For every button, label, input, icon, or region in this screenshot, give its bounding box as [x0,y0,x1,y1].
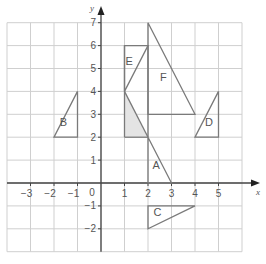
x-tick-label: −3 [21,188,33,199]
shape-label-d: D [205,116,213,128]
x-tick-label: 4 [192,188,198,199]
x-tick-label: 2 [145,188,151,199]
shape-label-a: A [153,159,161,171]
shape-label-f: F [160,71,167,83]
y-tick-label: 1 [90,155,96,166]
shape-label-c: C [153,206,161,218]
y-tick-label: −1 [85,200,97,211]
y-axis-label: y [89,3,94,13]
labels: −3−2−1123457654321−1−20xyABCDEF [21,3,260,234]
x-axis-label: x [255,187,260,197]
x-tick-label: 5 [216,188,222,199]
y-tick-label: 2 [90,132,96,143]
y-axis-arrow-icon [98,6,105,15]
y-tick-label: 4 [90,86,96,97]
y-tick-label: −2 [85,223,97,234]
y-tick-label: 7 [90,17,96,28]
x-tick-label: −1 [68,188,80,199]
x-tick-label: −2 [44,188,56,199]
y-tick-label: 6 [90,40,96,51]
y-tick-label: 5 [90,63,96,74]
coordinate-grid-diagram: −3−2−1123457654321−1−20xyABCDEF [0,0,266,264]
shape-label-e: E [126,55,133,67]
y-tick-label: 3 [90,109,96,120]
x-tick-label: 3 [169,188,175,199]
x-tick-label: 1 [122,188,128,199]
x-axis-arrow-icon [251,180,260,187]
shape-label-b: B [60,116,67,128]
origin-label: 0 [89,187,95,198]
